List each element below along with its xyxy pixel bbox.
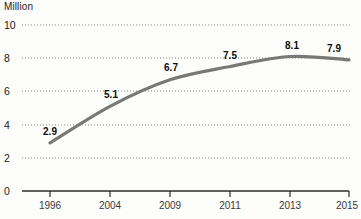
x-tick-label-2015: 2015: [327, 201, 361, 211]
point-label-2015: 7.9: [319, 44, 349, 54]
point-label-1996: 2.9: [35, 127, 65, 137]
point-label-2009: 6.7: [156, 63, 186, 73]
x-tick-label-2004: 2004: [90, 201, 130, 211]
plot-area: [0, 0, 361, 219]
x-tick-label-1996: 1996: [30, 201, 70, 211]
x-tick-label-2013: 2013: [270, 201, 310, 211]
point-label-2011: 7.5: [215, 51, 245, 61]
point-label-2013: 8.1: [277, 41, 307, 51]
line-chart: Million 10 8 6 4 2 0 1996 2004 200: [0, 0, 361, 219]
point-label-2004: 5.1: [96, 90, 126, 100]
x-tick-label-2009: 2009: [150, 201, 190, 211]
x-tick-label-2011: 2011: [210, 201, 250, 211]
data-series-line: [50, 56, 349, 143]
x-axis-ticks: [50, 191, 349, 197]
